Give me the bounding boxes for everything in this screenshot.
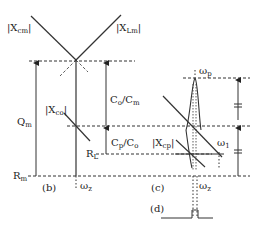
xlm-label: |XLm|: [116, 22, 141, 35]
panel-d: [161, 210, 213, 218]
xcp-label: |Xcp|: [152, 137, 174, 150]
co-cm-label: Co/Cm: [110, 94, 140, 107]
xcm-label: |Xcm|: [7, 22, 31, 35]
rm-label: Rm: [13, 170, 28, 183]
wp-label: ωp: [199, 65, 212, 78]
cp-co-label: Cp/Co: [111, 137, 138, 150]
pulse-waveform: [161, 210, 213, 218]
xcm-extension: [76, 60, 88, 72]
xco-asymptote: [64, 113, 90, 141]
impedance-diagram: |Xcm| |XLm| |Xco| Qm Co/Cm Cp/Co RL Rm ω…: [0, 0, 262, 231]
xco-label: |Xco|: [45, 104, 67, 117]
wz-b-label: ωz: [80, 180, 92, 193]
xlm-extension: [60, 60, 76, 76]
resonance-lower: [186, 130, 192, 168]
w1-label: ω1: [217, 137, 230, 150]
xlm-asymptote: [76, 15, 121, 60]
panel-d-label: (d): [150, 203, 164, 214]
qm-label: Qm: [17, 116, 32, 129]
panel-c: [163, 70, 250, 217]
panel-b-label: (b): [42, 182, 56, 193]
wz-c-label: ωz: [199, 180, 211, 193]
panel-c-label: (c): [151, 182, 165, 193]
rl-label: RL: [86, 148, 99, 161]
xcm-asymptote: [31, 16, 76, 60]
